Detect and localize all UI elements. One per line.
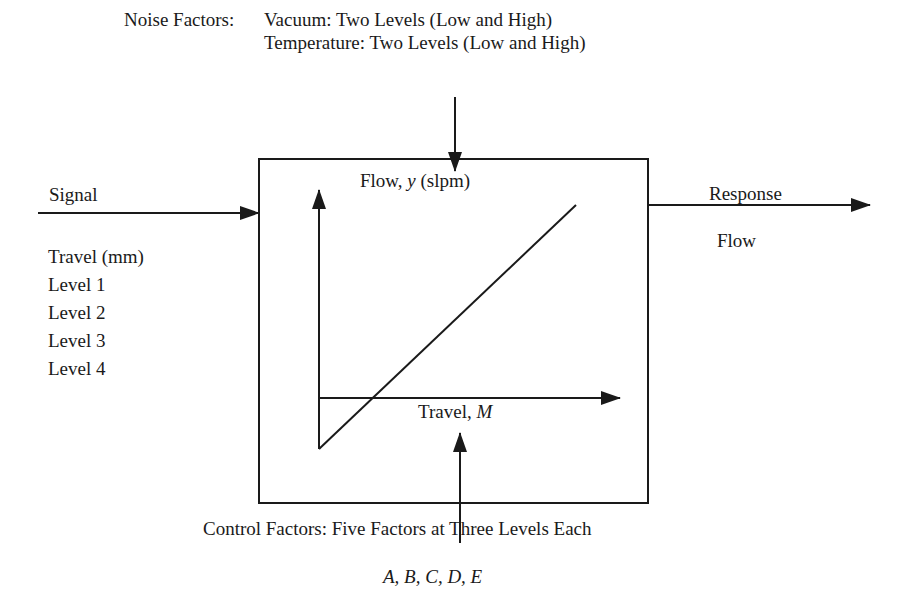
signal-level-3: Level 3	[48, 330, 106, 352]
noise-factors-label: Noise Factors:	[124, 9, 234, 31]
signal-heading: Travel (mm)	[48, 246, 144, 268]
signal-level-1: Level 1	[48, 274, 106, 296]
control-factors-label: Control Factors: Five Factors at Three L…	[203, 518, 592, 540]
response-label: Response	[709, 183, 782, 205]
y-axis-label: Flow, y (slpm)	[360, 170, 470, 192]
noise-vacuum: Vacuum: Two Levels (Low and High)	[264, 9, 552, 31]
p-diagram-lines	[0, 0, 901, 593]
control-factors-list: A, B, C, D, E	[383, 566, 482, 588]
signal-level-2: Level 2	[48, 302, 106, 324]
x-axis-label: Travel, M	[418, 401, 492, 423]
signal-level-4: Level 4	[48, 358, 106, 380]
response-value: Flow	[717, 230, 756, 252]
noise-temperature: Temperature: Two Levels (Low and High)	[264, 32, 585, 54]
system-box	[259, 159, 648, 503]
signal-label: Signal	[49, 184, 98, 206]
